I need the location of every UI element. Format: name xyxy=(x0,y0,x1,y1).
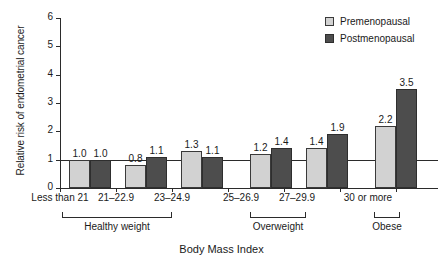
category-label-25-26-9: 25–26.9 xyxy=(211,192,271,204)
group-bracket-healthy-weight xyxy=(62,212,172,218)
bar-premenopausal-21-22-9[interactable]: 0.8 xyxy=(125,165,146,188)
y-tick-label: 6 xyxy=(33,11,53,23)
light-gray-swatch-icon xyxy=(325,17,334,26)
bar-value-label: 1.4 xyxy=(275,136,289,147)
y-tick-mark xyxy=(56,131,60,132)
category-label-27-29-9: 27–29.9 xyxy=(267,192,327,204)
y-tick-mark xyxy=(56,103,60,104)
bar-premenopausal-23-24-9[interactable]: 1.3 xyxy=(181,151,202,188)
bar-postmenopausal-less-than-21[interactable]: 1.0 xyxy=(90,160,111,188)
dark-gray-swatch-icon xyxy=(325,34,334,43)
bar-premenopausal-25-26-9[interactable]: 1.2 xyxy=(250,154,271,188)
y-tick-mark xyxy=(56,46,60,47)
bar-value-label: 1.0 xyxy=(73,148,87,159)
bar-value-label: 1.9 xyxy=(331,122,345,133)
bar-postmenopausal-27-29-9[interactable]: 1.9 xyxy=(327,134,348,188)
group-label-healthy-weight: Healthy weight xyxy=(62,221,172,233)
bar-value-label: 0.8 xyxy=(129,153,143,164)
legend: Premenopausal Postmenopausal xyxy=(325,14,415,48)
bar-postmenopausal-23-24-9[interactable]: 1.1 xyxy=(202,157,223,188)
x-axis-title: Body Mass Index xyxy=(0,243,443,255)
y-tick-mark xyxy=(56,160,60,161)
bar-postmenopausal-21-22-9[interactable]: 1.1 xyxy=(146,157,167,188)
y-axis-title: Relative risk of endometrial cancer xyxy=(15,1,26,201)
group-bracket-obese xyxy=(374,212,400,218)
group-label-obese: Obese xyxy=(362,221,412,233)
bar-value-label: 1.1 xyxy=(150,145,164,156)
legend-label: Premenopausal xyxy=(340,16,410,27)
y-tick-label: 2 xyxy=(33,124,53,136)
bar-premenopausal-27-29-9[interactable]: 1.4 xyxy=(306,148,327,188)
bar-value-label: 1.3 xyxy=(185,139,199,150)
y-tick-label: 4 xyxy=(33,68,53,80)
legend-label: Postmenopausal xyxy=(340,33,415,44)
y-axis-line xyxy=(60,18,61,188)
y-tick-mark xyxy=(56,18,60,19)
bar-postmenopausal-30-or-more[interactable]: 3.5 xyxy=(396,89,417,188)
bar-value-label: 1.4 xyxy=(310,136,324,147)
bar-value-label: 1.2 xyxy=(254,142,268,153)
group-bracket-overweight xyxy=(250,212,306,218)
bar-value-label: 1.1 xyxy=(206,145,220,156)
bar-postmenopausal-25-26-9[interactable]: 1.4 xyxy=(271,148,292,188)
category-label-less-than-21: Less than 21 xyxy=(30,192,90,204)
bar-value-label: 1.0 xyxy=(94,148,108,159)
legend-item-premenopausal[interactable]: Premenopausal xyxy=(325,14,415,28)
bar-premenopausal-30-or-more[interactable]: 2.2 xyxy=(375,126,396,188)
legend-item-postmenopausal[interactable]: Postmenopausal xyxy=(325,31,415,45)
bar-value-label: 2.2 xyxy=(379,114,393,125)
bar-premenopausal-less-than-21[interactable]: 1.0 xyxy=(69,160,90,188)
category-label-30-or-more: 30 or more xyxy=(336,192,400,204)
bar-value-label: 3.5 xyxy=(400,77,414,88)
y-tick-label: 1 xyxy=(33,153,53,165)
bar-chart: Relative risk of endometrial cancer 6 5 … xyxy=(0,0,443,266)
category-label-23-24-9: 23–24.9 xyxy=(142,192,202,204)
category-label-21-22-9: 21–22.9 xyxy=(86,192,146,204)
y-tick-mark xyxy=(56,75,60,76)
y-tick-label: 3 xyxy=(33,96,53,108)
y-tick-label: 5 xyxy=(33,39,53,51)
group-label-overweight: Overweight xyxy=(248,221,308,233)
